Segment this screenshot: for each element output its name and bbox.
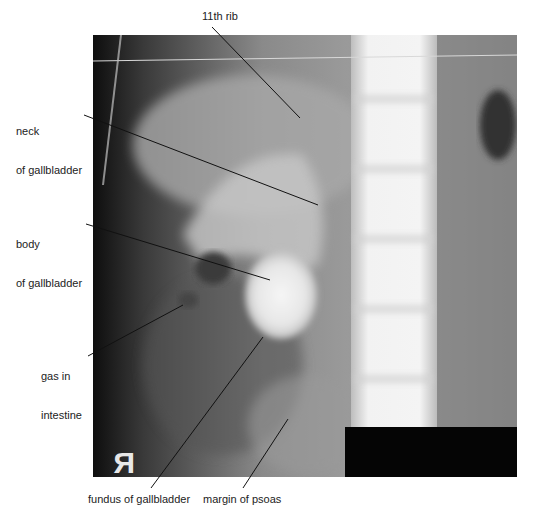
label-gas-in-intestine: gas in intestine xyxy=(41,344,82,435)
label-11th-rib: 11th rib xyxy=(202,10,238,23)
label-neck-of-gallbladder: neck of gallbladder xyxy=(16,99,82,190)
label-line: intestine xyxy=(41,409,82,422)
label-line: of gallbladder xyxy=(16,277,82,290)
label-line: of gallbladder xyxy=(16,164,82,177)
label-line: neck xyxy=(16,125,82,138)
label-margin-of-psoas: margin of psoas xyxy=(203,493,281,506)
label-line: body xyxy=(16,238,82,251)
label-body-of-gallbladder: body of gallbladder xyxy=(16,212,82,303)
label-line: gas in xyxy=(41,370,82,383)
label-fundus-of-gallbladder: fundus of gallbladder xyxy=(88,493,190,506)
